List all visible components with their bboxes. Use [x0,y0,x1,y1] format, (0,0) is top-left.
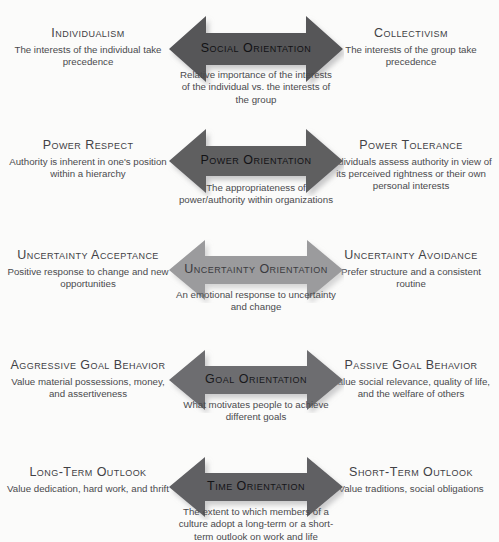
pole-left-title: Individualism [0,26,176,41]
pole-right-collectivism: Collectivism The interests of the group … [323,26,499,68]
pole-right-description: Value traditions, social obligations [323,483,499,495]
pole-right-title: Collectivism [323,26,499,41]
pole-left-title: Uncertainty Acceptance [0,248,176,263]
pole-right-title: Passive Goal Behavior [323,358,499,373]
pole-left-description: Positive response to change and new oppo… [0,266,176,290]
pole-left-description: Value dedication, hard work, and thrift [0,483,176,495]
pole-right-power-tolerance: Power Tolerance Individuals assess autho… [323,138,499,193]
pole-left-aggressive-goal-behavior: Aggressive Goal Behavior Value material … [0,358,176,400]
pole-left-description: Authority is inherent in one's position … [0,156,176,180]
arrow-caption-power-orientation: The appropriateness of power/authority w… [176,182,336,207]
arrow-caption-goal-orientation: What motivates people to achieve differe… [176,399,336,424]
arrow-caption-time-orientation: The extent to which members of a culture… [170,506,342,542]
pole-left-description: Value material possessions, money, and a… [0,376,176,400]
arrow-caption-uncertainty-orientation: An emotional response to uncertainty and… [176,289,336,314]
pole-left-title: Aggressive Goal Behavior [0,358,176,373]
pole-left-title: Power Respect [0,138,176,153]
pole-left-power-respect: Power Respect Authority is inherent in o… [0,138,176,180]
arrow-caption-social-orientation: Relative importance of the interests of … [176,69,336,106]
pole-left-uncertainty-acceptance: Uncertainty Acceptance Positive response… [0,248,176,290]
pole-right-title: Power Tolerance [323,138,499,153]
pole-right-title: Short-Term Outlook [323,465,499,480]
pole-left-description: The interests of the individual take pre… [0,44,176,68]
pole-right-description: Prefer structure and a consistent routin… [323,266,499,290]
pole-right-description: Individuals assess authority in view of … [323,156,499,193]
pole-left-title: Long-Term Outlook [0,465,176,480]
pole-right-passive-goal-behavior: Passive Goal Behavior Value social relev… [323,358,499,400]
pole-right-description: The interests of the group take preceden… [323,44,499,68]
pole-right-description: Value social relevance, quality of life,… [323,376,499,400]
pole-left-individualism: Individualism The interests of the indiv… [0,26,176,68]
pole-right-uncertainty-avoidance: Uncertainty Avoidance Prefer structure a… [323,248,499,290]
pole-right-title: Uncertainty Avoidance [323,248,499,263]
pole-left-long-term-outlook: Long-Term Outlook Value dedication, hard… [0,465,176,495]
cultural-dimensions-diagram: Individualism The interests of the indiv… [0,0,499,542]
pole-right-short-term-outlook: Short-Term Outlook Value traditions, soc… [323,465,499,495]
